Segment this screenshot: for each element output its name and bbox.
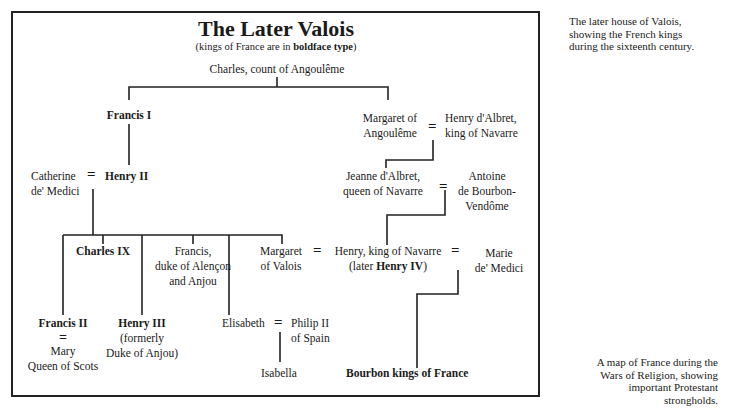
node-jeanne-albret: Jeanne d'Albret, queen of Navarre: [338, 169, 428, 199]
node-text: and Anjou: [148, 274, 238, 289]
node-text: Henry III: [100, 316, 184, 331]
node-charles-ix: Charles IX: [63, 244, 143, 259]
node-text: of Valois: [256, 259, 306, 274]
node-text: Margaret of: [355, 111, 425, 126]
node-text: Francis,: [148, 244, 238, 259]
node-francis-alencon: Francis, duke of Alençon and Anjou: [148, 244, 238, 289]
node-text: Margaret: [256, 244, 306, 259]
marriage-symbol: =: [87, 167, 96, 182]
node-text: Philip II: [291, 316, 330, 331]
marriage-symbol: =: [274, 315, 283, 330]
marriage-symbol: =: [428, 119, 437, 134]
subtitle-suffix: ): [353, 41, 357, 52]
node-text: of Spain: [291, 331, 330, 346]
node-text: Antoine: [452, 169, 522, 184]
node-marie-medici: Marie de' Medici: [469, 246, 529, 276]
marriage-symbol: =: [439, 179, 448, 194]
marriage-symbol: =: [313, 243, 322, 258]
node-antoine-bourbon: Antoine de Bourbon- Vendôme: [452, 169, 522, 214]
node-text: Francis II: [18, 316, 108, 331]
node-charles-angouleme: Charles, count of Angoulême: [197, 62, 357, 77]
node-text: ): [423, 260, 427, 272]
node-text: Queen of Scots: [18, 359, 108, 374]
node-text: duke of Alençon: [148, 259, 238, 274]
node-text: de' Medici: [31, 184, 79, 199]
node-text: (later: [349, 260, 376, 272]
node-isabella: Isabella: [261, 366, 297, 381]
node-henry-iii: Henry III (formerly Duke of Anjou): [100, 316, 184, 361]
node-text: de Bourbon-: [452, 184, 522, 199]
node-bourbon-kings: Bourbon kings of France: [346, 366, 468, 381]
node-text: Vendôme: [452, 199, 522, 214]
node-text: Jeanne d'Albret,: [338, 169, 428, 184]
node-text: Marie: [469, 246, 529, 261]
node-henry-albret: Henry d'Albret, king of Navarre: [445, 111, 518, 141]
caption-top: The later house of Valois, showing the F…: [569, 15, 694, 53]
node-francis-ii: Francis II = Mary Queen of Scots: [18, 316, 108, 374]
node-henry-navarre: Henry, king of Navarre (later Henry IV): [328, 244, 448, 274]
node-text: king of Navarre: [445, 126, 518, 141]
node-catherine-medici: Catherine de' Medici: [31, 169, 79, 199]
subtitle-bold: boldface type: [293, 41, 353, 52]
node-elisabeth: Elisabeth: [222, 316, 265, 331]
caption-line: The later house of Valois,: [569, 15, 694, 28]
node-text-bold: Henry IV: [376, 260, 423, 272]
node-text: queen of Navarre: [338, 184, 428, 199]
node-text: Duke of Anjou): [100, 346, 184, 361]
diagram-title: The Later Valois: [0, 16, 552, 42]
caption-bottom: A map of France during the Wars of Relig…: [560, 356, 718, 406]
node-text: (later Henry IV): [328, 259, 448, 274]
node-henry-ii: Henry II: [105, 169, 148, 184]
node-text: Henry d'Albret,: [445, 111, 518, 126]
caption-line: A map of France during the: [560, 356, 718, 369]
caption-line: during the sixteenth century.: [569, 40, 694, 53]
node-text: (formerly: [100, 331, 184, 346]
caption-line: Wars of Religion, showing: [560, 369, 718, 382]
node-philip-ii: Philip II of Spain: [291, 316, 330, 346]
caption-line: showing the French kings: [569, 28, 694, 41]
node-francis-i: Francis I: [89, 108, 169, 123]
marriage-symbol: =: [18, 331, 108, 344]
node-text: Henry, king of Navarre: [328, 244, 448, 259]
node-text: Mary: [18, 344, 108, 359]
node-text: Angoulême: [355, 126, 425, 141]
marriage-symbol: =: [451, 243, 460, 258]
node-text: de' Medici: [469, 261, 529, 276]
caption-line: important Protestant: [560, 381, 718, 394]
node-margaret-angouleme: Margaret of Angoulême: [355, 111, 425, 141]
node-text: Catherine: [31, 169, 79, 184]
subtitle-text: (kings of France are in: [196, 41, 294, 52]
node-margaret-valois: Margaret of Valois: [256, 244, 306, 274]
diagram-subtitle: (kings of France are in boldface type): [0, 41, 552, 52]
caption-line: strongholds.: [560, 394, 718, 407]
